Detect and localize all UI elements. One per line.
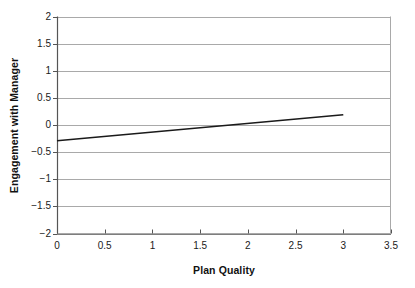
- x-tick-label-0: 0: [42, 241, 72, 251]
- x-tick-label-0_5: 0.5: [90, 241, 120, 251]
- x-tick-label-1_5: 1.5: [185, 241, 215, 251]
- x-tick-label-1: 1: [137, 241, 167, 251]
- x-tick-label-2: 2: [233, 241, 263, 251]
- x-tick-label-2_5: 2.5: [281, 241, 311, 251]
- trend-line-0: [57, 115, 343, 141]
- x-tick-label-3_5: 3.5: [376, 241, 406, 251]
- chart-figure: Engagement with Manager 21.510.50−0.5−1−…: [0, 0, 415, 288]
- x-axis-title: Plan Quality: [57, 264, 391, 276]
- x-tick-label-3: 3: [328, 241, 358, 251]
- x-tick-mark-group: [58, 230, 392, 234]
- data-series-group: [57, 115, 343, 141]
- y-tick-mark-group: [53, 18, 57, 235]
